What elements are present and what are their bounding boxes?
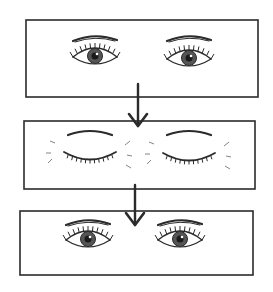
panel-open-2 [20, 211, 253, 275]
motion-line [127, 155, 132, 156]
panel-frame [26, 20, 258, 97]
eyelash [108, 46, 110, 51]
eyelash [170, 227, 171, 232]
eyelash [104, 44, 105, 49]
panel-open-1 [26, 20, 258, 97]
eyelash [112, 154, 113, 158]
left-eye [63, 220, 113, 247]
left-eye [70, 36, 120, 64]
eye-highlight [190, 55, 193, 58]
eyelash [106, 232, 108, 237]
motion-line [48, 159, 52, 163]
eyelash [160, 232, 162, 237]
eyelash [80, 46, 82, 51]
eyelash [198, 232, 200, 237]
right-eye [145, 131, 231, 169]
eyelash [189, 227, 190, 232]
blink-sequence-diagram [0, 0, 273, 292]
eyelash [165, 229, 167, 234]
eyelash [202, 48, 204, 53]
motion-line [125, 141, 130, 145]
eyelash [184, 226, 185, 231]
eyelash [73, 229, 75, 234]
left-eye [46, 131, 132, 168]
eyebrow-icon [167, 131, 211, 135]
eyelash [81, 159, 82, 163]
eyelash [198, 46, 199, 51]
motion-line [224, 142, 229, 146]
eyelash [198, 160, 199, 164]
eyelash [78, 227, 79, 232]
motion-line [149, 142, 154, 144]
eyelash [117, 52, 120, 57]
eyelash [70, 52, 73, 57]
panel-frame [24, 121, 255, 189]
eyelash [67, 154, 68, 158]
eyelash [179, 46, 180, 51]
eyelash [211, 155, 212, 159]
eyelash [85, 44, 86, 49]
right-eye [164, 36, 214, 66]
motion-line [50, 141, 55, 143]
eyelash [169, 51, 171, 56]
eyelash [184, 45, 185, 50]
sketch-svg [0, 0, 273, 292]
motion-line [126, 165, 131, 168]
eyelash [155, 235, 158, 240]
eyelash [174, 48, 176, 53]
motion-line [225, 166, 230, 169]
eyelash [101, 229, 103, 234]
eyelash [113, 49, 115, 54]
eyelash [92, 226, 93, 231]
eyelash [90, 43, 91, 48]
down-arrow-icon [126, 185, 144, 225]
eyelash [99, 43, 100, 48]
panel-frame [20, 211, 253, 275]
eyelash [166, 155, 167, 159]
motion-line [226, 156, 231, 157]
eyelash [110, 235, 113, 240]
eye-highlight [96, 53, 99, 56]
eyelash [97, 227, 98, 232]
eyelash [75, 49, 77, 54]
eyelash [193, 229, 195, 234]
eyelash [63, 235, 66, 240]
eyelash [180, 160, 181, 164]
right-eye [155, 220, 205, 247]
eyelash [211, 54, 214, 59]
eyebrow-icon [68, 131, 112, 135]
eyelash [83, 226, 84, 231]
eyelash [175, 226, 176, 231]
eyelash [202, 235, 205, 240]
panel-closed [24, 121, 255, 189]
eye-highlight [89, 236, 92, 239]
motion-line [147, 160, 151, 164]
eye-highlight [181, 236, 184, 239]
eyelash [68, 232, 70, 237]
eyelash [193, 45, 194, 50]
eyelash [99, 159, 100, 163]
eyelash [164, 54, 167, 59]
eyelash [207, 51, 209, 56]
down-arrow-icon [129, 84, 147, 126]
